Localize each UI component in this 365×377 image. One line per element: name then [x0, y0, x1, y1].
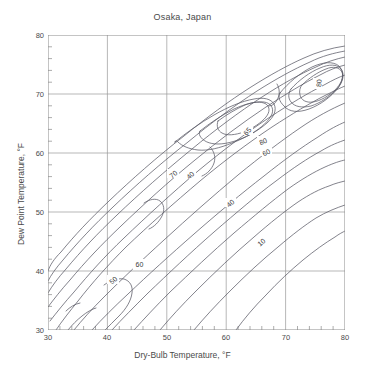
- contour-line: [202, 147, 215, 176]
- x-axis-label: Dry-Bulb Temperature, °F: [0, 350, 365, 360]
- y-tick-40: 40: [4, 267, 44, 276]
- grid-lines: [48, 35, 345, 330]
- contour-label: 80: [315, 79, 322, 87]
- y-tick-80: 80: [4, 31, 44, 40]
- minor-ticks: [48, 47, 333, 330]
- figure: Osaka, Japan 80 70 60 50 40 30 30 40 50 …: [0, 0, 365, 377]
- contour-line: [134, 160, 345, 330]
- contour-line: [48, 57, 345, 293]
- contour-line: [104, 279, 132, 330]
- contour-lines: [48, 46, 345, 330]
- contour-label: 60: [136, 261, 144, 268]
- contour-line: [74, 103, 345, 330]
- y-axis-label: Dew Point Temperature, °F: [16, 143, 26, 245]
- contour-line: [279, 63, 343, 112]
- x-tick-60: 60: [213, 333, 239, 342]
- plot-area: 80 65 80 60 70 40 40 10 60 50: [48, 35, 345, 330]
- contour-line: [50, 75, 345, 321]
- contour-plot-svg: 80 65 80 60 70 40 40 10 60 50: [48, 35, 345, 330]
- x-tick-70: 70: [273, 333, 299, 342]
- x-tick-40: 40: [94, 333, 120, 342]
- contour-line: [112, 140, 345, 330]
- x-tick-30: 30: [35, 333, 61, 342]
- chart-title: Osaka, Japan: [0, 12, 365, 22]
- y-tick-70: 70: [4, 90, 44, 99]
- contour-label-masks: [107, 78, 322, 284]
- x-axis-tick-labels: 30 40 50 60 70 80: [0, 333, 365, 349]
- contour-line: [68, 308, 96, 330]
- plot-frame: [48, 35, 345, 330]
- x-tick-50: 50: [154, 333, 180, 342]
- x-tick-80: 80: [332, 333, 358, 342]
- contour-line: [236, 231, 345, 330]
